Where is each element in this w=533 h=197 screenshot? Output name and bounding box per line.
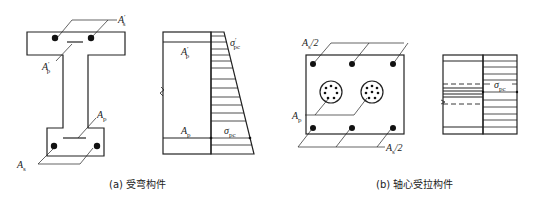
label-as-half-bottom: As/2	[385, 142, 403, 156]
leader-ap-prime	[56, 44, 72, 61]
tendon-duct-left	[320, 81, 342, 103]
leader-as-half-top-1	[313, 43, 404, 64]
bottom-bar-left	[51, 143, 57, 149]
leader-as-half-top-3	[393, 43, 408, 64]
label-as-prime: A′s	[117, 13, 126, 28]
caption-a: (a) 受弯构件	[109, 176, 166, 191]
label-sigma-pc-prime: σ′pc	[230, 36, 240, 51]
bar-top-left	[310, 61, 316, 67]
bar-bottom-middle	[349, 125, 355, 131]
top-bar-left	[52, 35, 58, 41]
stress-label-ap: Ap	[180, 125, 191, 139]
bar-bottom-right	[390, 125, 396, 131]
prestress-diagram-figure: A′s A′p Ap As A′p Ap σ′pc σpc As/2 Ap As…	[0, 0, 533, 197]
label-ap-b: Ap	[291, 110, 302, 124]
axial-stress-diagram	[441, 55, 517, 134]
leader-ap-right	[305, 98, 367, 115]
label-sigma-pc-b: σpc	[494, 79, 506, 93]
bar-top-right	[390, 61, 396, 67]
leader-as-half-bottom-2	[336, 129, 350, 147]
bottom-bar-right	[94, 143, 100, 149]
label-sigma-pc: σpc	[224, 125, 236, 139]
leader-as-prime-2	[91, 20, 117, 38]
leader-as-half-bottom-1	[298, 129, 385, 147]
axial-section-bars	[310, 61, 396, 131]
stress-label-ap-prime: A′p	[180, 45, 190, 60]
caption-b: (b) 轴心受拉构件	[376, 176, 453, 191]
leader-ap-left	[315, 98, 329, 115]
diagram-canvas: A′s A′p Ap As A′p Ap σ′pc σpc As/2 Ap As…	[0, 0, 533, 197]
bar-bottom-left	[310, 125, 316, 131]
leader-as-prime-1	[57, 20, 108, 38]
i-beam-section	[27, 20, 125, 164]
label-as-half-top: As/2	[301, 37, 319, 51]
label-ap-prime: A′p	[41, 60, 51, 75]
axial-section	[298, 43, 408, 147]
label-ap: Ap	[96, 109, 107, 123]
leader-as-half-top-2	[352, 43, 369, 64]
top-bar-right	[88, 35, 94, 41]
tendon-point-right	[249, 137, 252, 140]
i-beam-bars	[51, 35, 100, 149]
uniform-hatching	[483, 61, 517, 127]
stress-hatching	[211, 36, 252, 145]
label-as: As	[16, 159, 26, 173]
bar-top-middle	[349, 61, 355, 67]
tendon-point-left	[210, 137, 213, 140]
